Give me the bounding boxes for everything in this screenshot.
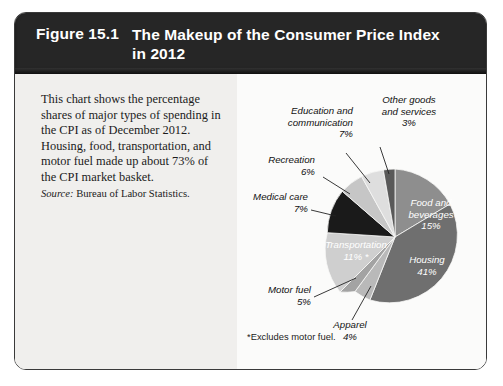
pie-label-food-l2: beverages xyxy=(408,209,453,220)
pie-label-housing-l1: Housing xyxy=(409,254,445,265)
figure-title-line-1: The Makeup of the Consumer Price Index xyxy=(132,25,472,44)
figure-body: This chart shows the percentage shares o… xyxy=(15,74,486,370)
figure-number: Figure 15.1 xyxy=(36,25,119,43)
pie-label-medical-l2: 7% xyxy=(294,203,308,214)
figure-header-banner: Figure 15.1 The Makeup of the Consumer P… xyxy=(14,12,487,74)
pie-label-recreation-l1: Recreation xyxy=(268,154,315,165)
caption-body-text: This chart shows the percentage shares o… xyxy=(41,92,221,186)
figure-title: The Makeup of the Consumer Price Index i… xyxy=(132,25,472,63)
pie-label-motor-fuel-l2: 5% xyxy=(297,296,311,307)
pie-label-education-l2: communication xyxy=(288,117,353,128)
pie-label-recreation-l2: 6% xyxy=(301,166,315,177)
pie-label-transportation-l1: Transportation xyxy=(325,239,387,250)
pie-label-food-l3: 15% xyxy=(421,220,440,231)
pie-label-apparel-l1: Apparel xyxy=(333,319,366,330)
figure-title-line-2: in 2012 xyxy=(132,44,472,63)
pie-label-medical-l1: Medical care xyxy=(253,191,308,202)
leader-line-recreation xyxy=(323,177,350,194)
source-value: Bureau of Labor Statistics. xyxy=(74,188,190,199)
pie-label-motor-fuel-l1: Motor fuel xyxy=(268,284,311,295)
chart-footnote: *Excludes motor fuel. xyxy=(247,331,336,342)
pie-label-housing: Housing 41% xyxy=(395,254,459,277)
pie-label-other-l3: 3% xyxy=(402,117,416,128)
pie-label-other-l2: and services xyxy=(382,106,436,117)
pie-label-recreation: Recreation 6% xyxy=(231,154,315,177)
pie-label-education-l1: Education and xyxy=(291,105,353,116)
pie-label-medical-care: Medical care 7% xyxy=(213,191,308,214)
pie-label-food-and-beverages: Food and beverages 15% xyxy=(392,197,470,232)
caption-panel: This chart shows the percentage shares o… xyxy=(15,74,237,370)
pie-label-other-goods-and-services: Other goods and services 3% xyxy=(365,94,453,129)
chart-panel: Other goods and services 3% Education an… xyxy=(237,74,486,370)
source-label: Source: xyxy=(41,188,74,199)
pie-label-transportation-l2: 11% * xyxy=(343,251,368,262)
pie-label-transportation: Transportation 11% * xyxy=(309,239,403,262)
pie-label-education-l3: 7% xyxy=(339,128,353,139)
pie-label-other-l1: Other goods xyxy=(382,94,435,105)
pie-label-apparel-l2: 4% xyxy=(343,331,357,342)
caption-source-line: Source: Bureau of Labor Statistics. xyxy=(41,188,231,199)
pie-label-housing-l2: 41% xyxy=(417,266,436,277)
pie-label-food-l1: Food and xyxy=(411,197,452,208)
pie-label-education-and-communication: Education and communication 7% xyxy=(255,105,353,140)
figure-card: Figure 15.1 The Makeup of the Consumer P… xyxy=(14,12,487,370)
pie-label-motor-fuel: Motor fuel 5% xyxy=(221,284,311,307)
